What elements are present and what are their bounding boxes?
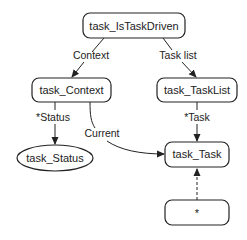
edge-label-status: *Status (36, 111, 70, 123)
edge-label-current: Current (84, 127, 119, 139)
edge-context: Context (72, 38, 109, 77)
edge-task: *Task (184, 102, 210, 141)
node-task-list[interactable]: task_TaskList (157, 78, 237, 102)
edge-label-task-list: Task list (159, 49, 196, 61)
node-label: * (195, 207, 200, 219)
node-any[interactable]: * (165, 200, 229, 225)
node-label: task_Task (173, 148, 222, 160)
edge-task-list: Task list (159, 38, 196, 77)
node-task[interactable]: task_Task (165, 142, 229, 167)
node-label: task_IsTaskDriven (89, 20, 178, 32)
diagram-canvas: Context Task list *Status Current *Task … (0, 0, 247, 240)
edge-current: Current (84, 102, 164, 154)
node-is-task-driven[interactable]: task_IsTaskDriven (83, 13, 185, 38)
node-context[interactable]: task_Context (32, 78, 111, 102)
edge-label-task: *Task (184, 111, 210, 123)
node-label: task_Context (39, 84, 103, 96)
edge-status: *Status (36, 102, 70, 144)
node-label: task_Status (26, 152, 84, 164)
edge-label-context: Context (73, 49, 109, 61)
node-status[interactable]: task_Status (17, 145, 93, 171)
node-label: task_TaskList (164, 84, 230, 96)
